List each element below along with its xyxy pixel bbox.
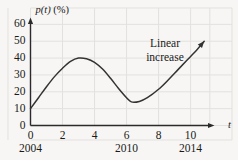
x-tick-label: 2: [53, 130, 73, 142]
x-tick-label: 0: [21, 130, 41, 142]
x-tick-label: 6: [117, 130, 137, 142]
y-axis-variable: p(t): [36, 4, 51, 15]
y-tick-label: 50: [6, 35, 26, 47]
y-tick-label: 60: [6, 18, 26, 30]
annotation-linear-increase: Linear increase: [133, 37, 197, 63]
x-axis-arrowhead: [208, 123, 215, 128]
y-tick-label: 20: [6, 86, 26, 98]
x-year-label: 2014: [174, 143, 208, 155]
x-year-label: 2010: [110, 143, 144, 155]
x-axis-title: t: [228, 120, 231, 131]
x-year-label: 2004: [14, 143, 48, 155]
y-axis-arrowhead: [28, 18, 33, 25]
annotation-line-1: Linear: [133, 37, 197, 50]
y-axis-title: p(t) (%): [36, 5, 70, 16]
y-tick-label: 40: [6, 52, 26, 64]
gridlines: [8, 8, 232, 140]
chart-figure: p(t) (%) t 0102030405060 0246810 2004201…: [0, 0, 238, 160]
x-tick-label: 10: [181, 130, 201, 142]
axes: [28, 18, 215, 129]
x-tick-label: 4: [85, 130, 105, 142]
annotation-line-2: increase: [133, 51, 197, 64]
y-tick-label: 30: [6, 69, 26, 81]
y-tick-label: 10: [6, 103, 26, 115]
x-tick-label: 8: [149, 130, 169, 142]
y-axis-unit: (%): [53, 4, 69, 15]
